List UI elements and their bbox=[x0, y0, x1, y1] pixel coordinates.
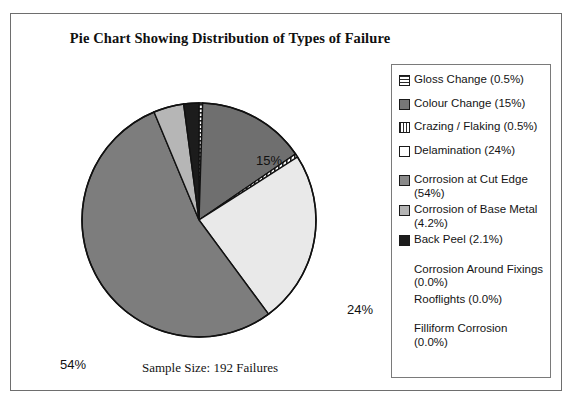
legend-swatch-none-icon bbox=[399, 324, 410, 335]
pie-chart-figure: Pie Chart Showing Distribution of Types … bbox=[0, 0, 577, 410]
legend-swatch-none-icon bbox=[399, 265, 410, 276]
pie-graphic bbox=[18, 60, 378, 385]
legend-spacer bbox=[399, 160, 544, 173]
legend-label: Corrosion Around Fixings (0.0%) bbox=[414, 263, 544, 290]
legend-label: Filliform Corrosion (0.0%) bbox=[414, 322, 544, 349]
legend-spacer bbox=[399, 250, 544, 263]
legend-item-colour-change: Colour Change (15%) bbox=[399, 97, 544, 111]
legend-swatch-medium-gray-icon bbox=[399, 175, 410, 186]
callout-colour-change: 15% bbox=[256, 153, 282, 168]
legend-swatch-none-icon bbox=[399, 295, 410, 306]
legend-swatch-light-gray-icon bbox=[399, 205, 410, 216]
legend-item-rooflights: Rooflights (0.0%) bbox=[399, 293, 544, 307]
legend-item-corrosion-at-cut-edge: Corrosion at Cut Edge (54%) bbox=[399, 173, 544, 200]
legend-spacer bbox=[399, 90, 544, 97]
legend-item-filliform-corrosion: Filliform Corrosion (0.0%) bbox=[399, 322, 544, 349]
legend-label: Gloss Change (0.5%) bbox=[414, 73, 524, 87]
legend-spacer bbox=[399, 309, 544, 322]
legend-swatch-vertical-stripe-icon bbox=[399, 122, 410, 133]
page-title: Pie Chart Showing Distribution of Types … bbox=[60, 30, 400, 47]
legend-spacer bbox=[399, 113, 544, 120]
legend-item-gloss-change: Gloss Change (0.5%) bbox=[399, 73, 544, 87]
legend-swatch-black-icon bbox=[399, 235, 410, 246]
legend-label: Colour Change (15%) bbox=[414, 97, 525, 111]
legend: Gloss Change (0.5%) Colour Change (15%) … bbox=[391, 64, 551, 378]
sample-size-caption: Sample Size: 192 Failures bbox=[60, 360, 360, 376]
legend-label: Corrosion at Cut Edge (54%) bbox=[414, 173, 544, 200]
pie-plot-area: 15% 24% 54% bbox=[18, 60, 378, 385]
legend-spacer bbox=[399, 137, 544, 144]
legend-item-corrosion-of-base-metal: Corrosion of Base Metal (4.2%) bbox=[399, 203, 544, 230]
legend-item-crazing-flaking: Crazing / Flaking (0.5%) bbox=[399, 120, 544, 134]
legend-swatch-dark-gray-icon bbox=[399, 99, 410, 110]
legend-label: Rooflights (0.0%) bbox=[414, 293, 502, 307]
legend-label: Delamination (24%) bbox=[414, 144, 515, 158]
legend-item-back-peel: Back Peel (2.1%) bbox=[399, 233, 544, 247]
legend-swatch-horizontal-stripe-icon bbox=[399, 75, 410, 86]
legend-label: Crazing / Flaking (0.5%) bbox=[414, 120, 537, 134]
legend-swatch-white-icon bbox=[399, 146, 410, 157]
legend-item-delamination: Delamination (24%) bbox=[399, 144, 544, 158]
legend-item-corrosion-around-fixings: Corrosion Around Fixings (0.0%) bbox=[399, 263, 544, 290]
callout-delamination: 24% bbox=[347, 302, 373, 317]
legend-label: Back Peel (2.1%) bbox=[414, 233, 503, 247]
legend-label: Corrosion of Base Metal (4.2%) bbox=[414, 203, 544, 230]
